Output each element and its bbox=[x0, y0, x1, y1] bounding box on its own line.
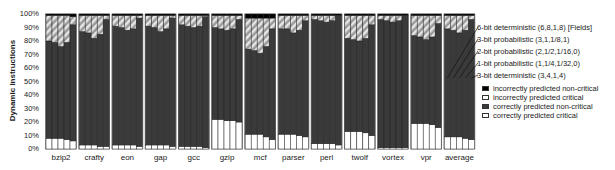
legend-category-label: correctly predicted non-critical bbox=[493, 102, 593, 111]
bar-segment bbox=[278, 134, 284, 149]
bar-segment bbox=[456, 33, 462, 137]
bar-segment bbox=[85, 15, 91, 33]
bar-segment bbox=[236, 122, 242, 149]
bar-segment bbox=[378, 15, 384, 19]
bar-segment bbox=[450, 137, 456, 149]
bar-segment bbox=[278, 29, 284, 134]
bar-segment bbox=[378, 14, 384, 15]
bar-segment bbox=[79, 15, 85, 31]
bar-segment bbox=[296, 136, 302, 150]
bar-segment bbox=[79, 32, 85, 145]
bar-segment bbox=[152, 28, 158, 145]
bar-segment bbox=[130, 145, 136, 149]
bar-segment bbox=[103, 14, 109, 15]
bar-segment bbox=[330, 14, 336, 15]
bar-segment bbox=[462, 138, 468, 149]
bar-segment bbox=[245, 134, 251, 149]
bar-segment bbox=[124, 14, 130, 15]
bar-segment bbox=[112, 26, 118, 145]
bar-segment bbox=[324, 144, 330, 149]
bar-segment bbox=[58, 15, 64, 46]
bar-segment bbox=[269, 14, 275, 18]
bar-segment bbox=[218, 14, 224, 15]
bar-segment bbox=[351, 131, 357, 149]
bar-segment bbox=[230, 29, 236, 121]
bar-segment bbox=[336, 14, 342, 15]
y-tick-label: 80% bbox=[9, 36, 39, 45]
bar-segment bbox=[164, 15, 170, 29]
bar-segment bbox=[468, 14, 474, 15]
bar-segment bbox=[118, 15, 124, 27]
bar-segment bbox=[103, 15, 109, 19]
bar-segment bbox=[224, 14, 230, 15]
bar-segment bbox=[284, 134, 290, 149]
bar-segment bbox=[369, 25, 375, 136]
bar-segment bbox=[296, 14, 302, 15]
bar-segment bbox=[257, 18, 263, 53]
bar-segment bbox=[70, 25, 76, 141]
bar-segment bbox=[330, 15, 336, 20]
bar-segment bbox=[462, 15, 468, 30]
bar-segment bbox=[185, 26, 191, 146]
bar-segment bbox=[118, 145, 124, 149]
bar-segment bbox=[296, 30, 302, 135]
bar-segment bbox=[456, 15, 462, 33]
bar-segment bbox=[146, 15, 152, 26]
bar-segment bbox=[185, 14, 191, 15]
bar-segment bbox=[179, 146, 185, 149]
bar-segment bbox=[369, 136, 375, 150]
bar-segment bbox=[417, 15, 423, 37]
bar-segment bbox=[191, 28, 197, 147]
bar-segment bbox=[423, 14, 429, 15]
bar-segment bbox=[170, 146, 176, 149]
bar-segment bbox=[263, 18, 269, 46]
bar-segment bbox=[384, 15, 390, 20]
bar-segment bbox=[324, 15, 330, 22]
bar-segment bbox=[302, 137, 308, 149]
y-tick-label: 30% bbox=[9, 104, 39, 113]
legend-swatch bbox=[482, 86, 489, 91]
bar-segment bbox=[103, 19, 109, 146]
bar-segment bbox=[284, 29, 290, 134]
bar-segment bbox=[278, 15, 284, 29]
bar-segment bbox=[269, 29, 275, 140]
y-tick-label: 60% bbox=[9, 63, 39, 72]
y-tick-label: 50% bbox=[9, 77, 39, 86]
bar-segment bbox=[251, 134, 257, 149]
bar-segment bbox=[64, 42, 70, 139]
bar-segment bbox=[152, 145, 158, 149]
y-tick-label: 0% bbox=[9, 144, 39, 153]
bar-segment bbox=[85, 145, 91, 149]
bar-segment bbox=[46, 41, 52, 138]
bar-segment bbox=[444, 14, 450, 15]
bar-segment bbox=[230, 14, 236, 15]
bar-segment bbox=[197, 15, 203, 26]
bar-segment bbox=[197, 14, 203, 15]
bar-segment bbox=[58, 138, 64, 149]
y-tick-label: 70% bbox=[9, 50, 39, 59]
bar-segment bbox=[318, 144, 324, 149]
bar-segment bbox=[245, 14, 251, 18]
bar-segment bbox=[58, 46, 64, 138]
bar-segment bbox=[91, 145, 97, 149]
bar-segment bbox=[423, 15, 429, 39]
bar-segment bbox=[152, 15, 158, 27]
bar-segment bbox=[130, 29, 136, 145]
bar-segment bbox=[429, 15, 435, 37]
bar-segment bbox=[312, 19, 318, 143]
y-tick-label: 20% bbox=[9, 117, 39, 126]
bar-segment bbox=[345, 38, 351, 131]
bar-segment bbox=[251, 50, 257, 134]
bar-segment bbox=[224, 15, 230, 30]
bar-segment bbox=[462, 14, 468, 15]
legend-config-label: 3-bit deterministic (3,4,1,4) bbox=[477, 71, 566, 80]
bar-segment bbox=[146, 145, 152, 149]
bar-segment bbox=[357, 131, 363, 149]
bar-segment bbox=[411, 15, 417, 35]
bar-segment bbox=[197, 146, 203, 149]
legend-category-label: incorrectly predicted non-critical bbox=[493, 84, 598, 93]
bar-segment bbox=[257, 14, 263, 18]
bar-segment bbox=[52, 138, 58, 149]
y-tick-label: 100% bbox=[9, 9, 39, 18]
bar-segment bbox=[444, 137, 450, 149]
